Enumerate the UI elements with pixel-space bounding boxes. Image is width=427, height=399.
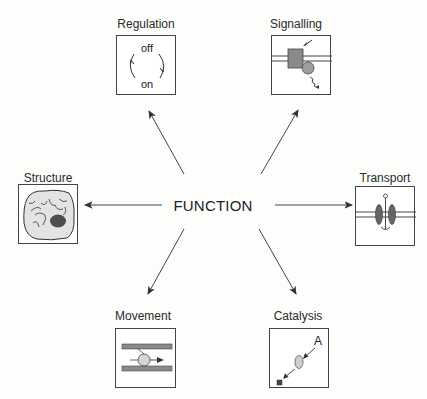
effector-shape [302, 62, 314, 74]
substrate-a-text: A [314, 334, 322, 348]
motor-protein-icon [116, 329, 177, 389]
enzyme-shape [295, 356, 303, 369]
arrow-to-regulation [149, 111, 184, 174]
off-text: off [141, 42, 154, 54]
movement-panel [115, 328, 176, 388]
structure-panel [18, 184, 78, 244]
signalling-panel [271, 35, 331, 95]
structure-label: Structure [24, 171, 73, 185]
signalling-label: Signalling [270, 17, 322, 31]
catalysis-panel: A [269, 328, 329, 388]
membrane-transporter-icon [356, 187, 416, 247]
transporter-right [389, 205, 396, 225]
receptor-shape [288, 49, 303, 68]
regulation-panel: off on [116, 35, 176, 95]
product-shape [277, 380, 282, 385]
cell-structure-icon [19, 185, 79, 245]
function-diagram: FUNCTION Regulation off on Signalling St… [0, 0, 427, 399]
function-label: FUNCTION [173, 197, 252, 214]
transport-label: Transport [360, 171, 411, 185]
movement-label: Movement [115, 309, 171, 323]
receptor-signalling-icon [272, 36, 332, 96]
transport-panel [355, 186, 415, 246]
catalysis-label: Catalysis [274, 309, 323, 323]
on-text: on [141, 78, 153, 90]
arrow-to-signalling [261, 110, 298, 174]
regulation-label: Regulation [117, 17, 174, 31]
on-off-cycle-icon: off on [117, 36, 177, 96]
arrow-to-catalysis [259, 229, 296, 294]
transporter-left [376, 205, 383, 225]
enzyme-catalysis-icon: A [270, 329, 330, 389]
arrow-to-movement [148, 229, 184, 294]
